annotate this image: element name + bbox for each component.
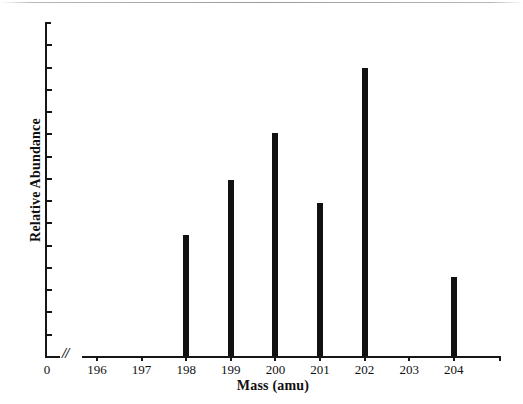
axis-break-symbol: // <box>62 344 80 362</box>
y-axis-line <box>45 22 47 358</box>
y-axis-tick <box>47 267 52 269</box>
x-axis-tick <box>274 356 276 361</box>
y-axis-tick <box>47 156 52 158</box>
x-axis-end-tick <box>499 356 501 361</box>
y-axis-tick <box>47 245 52 247</box>
y-axis-top-tick <box>45 22 51 24</box>
y-axis-tick <box>47 178 52 180</box>
y-axis-tick <box>47 67 52 69</box>
x-axis-tick-label: 204 <box>431 362 477 378</box>
x-axis-tick <box>141 356 143 361</box>
y-axis-tick <box>47 334 52 336</box>
plot-area: // 0 196197198199200201202203204 Mass (a… <box>0 0 523 404</box>
y-axis-tick <box>47 133 52 135</box>
bar <box>183 235 189 356</box>
bar <box>228 180 234 356</box>
x-axis-tick <box>230 356 232 361</box>
y-axis-tick <box>47 222 52 224</box>
y-axis-tick <box>47 289 52 291</box>
x-axis-tick-label: 196 <box>74 362 120 378</box>
x-axis-title: Mass (amu) <box>45 378 501 394</box>
y-axis-tick <box>47 111 52 113</box>
x-axis-tick-label: 202 <box>342 362 388 378</box>
x-axis-origin-label: 0 <box>39 362 55 378</box>
x-axis-tick <box>96 356 98 361</box>
bar <box>362 68 368 356</box>
bar <box>272 133 278 356</box>
y-axis-tick <box>47 311 52 313</box>
y-axis-tick <box>47 44 52 46</box>
x-axis-tick <box>319 356 321 361</box>
bar <box>451 277 457 356</box>
y-axis-tick <box>47 200 52 202</box>
x-axis-tick <box>364 356 366 361</box>
x-axis-tick <box>185 356 187 361</box>
x-axis-tick-label: 198 <box>163 362 209 378</box>
x-axis-tick-label: 203 <box>386 362 432 378</box>
x-axis-tick <box>408 356 410 361</box>
x-axis-tick-label: 199 <box>208 362 254 378</box>
x-axis-tick <box>453 356 455 361</box>
x-axis-tick-label: 197 <box>119 362 165 378</box>
x-axis-tick-label: 200 <box>252 362 298 378</box>
y-axis-title: Relative Abundance <box>28 40 44 320</box>
mass-spectrum-figure: // 0 196197198199200201202203204 Mass (a… <box>0 0 523 404</box>
x-axis-line <box>45 356 501 358</box>
x-axis-tick-label: 201 <box>297 362 343 378</box>
bar <box>317 203 323 356</box>
y-axis-tick <box>47 89 52 91</box>
